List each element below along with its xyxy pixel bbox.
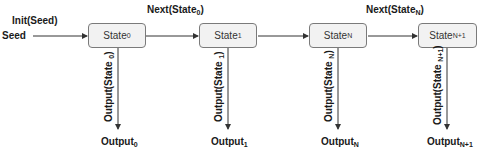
seed-label: Seed [2, 30, 26, 41]
state-box-n-plus-1: StateN+1 [418, 23, 477, 48]
state-box-n: StateN [309, 23, 367, 48]
state-box-1: State1 [199, 23, 257, 48]
output-label-1: Output1 [211, 136, 248, 147]
output-edge-label-n: Output(State N) [323, 50, 334, 122]
output-edge-label-0: Output(State 0) [103, 51, 114, 122]
output-edge-label-n-plus-1: Output(State N+1) [432, 45, 443, 125]
output-label-n: OutputN [321, 136, 359, 147]
state-box-0: State0 [88, 23, 146, 48]
output-label-0: Output0 [101, 136, 138, 147]
init-seed-label: Init(Seed) [12, 15, 58, 26]
next-state-0-label: Next(State0) [147, 4, 204, 15]
output-edge-label-1: Output(State 1) [213, 51, 224, 122]
output-label-n-plus-1: OutputN+1 [427, 136, 473, 147]
next-state-n-label: Next(StateN) [366, 4, 424, 15]
